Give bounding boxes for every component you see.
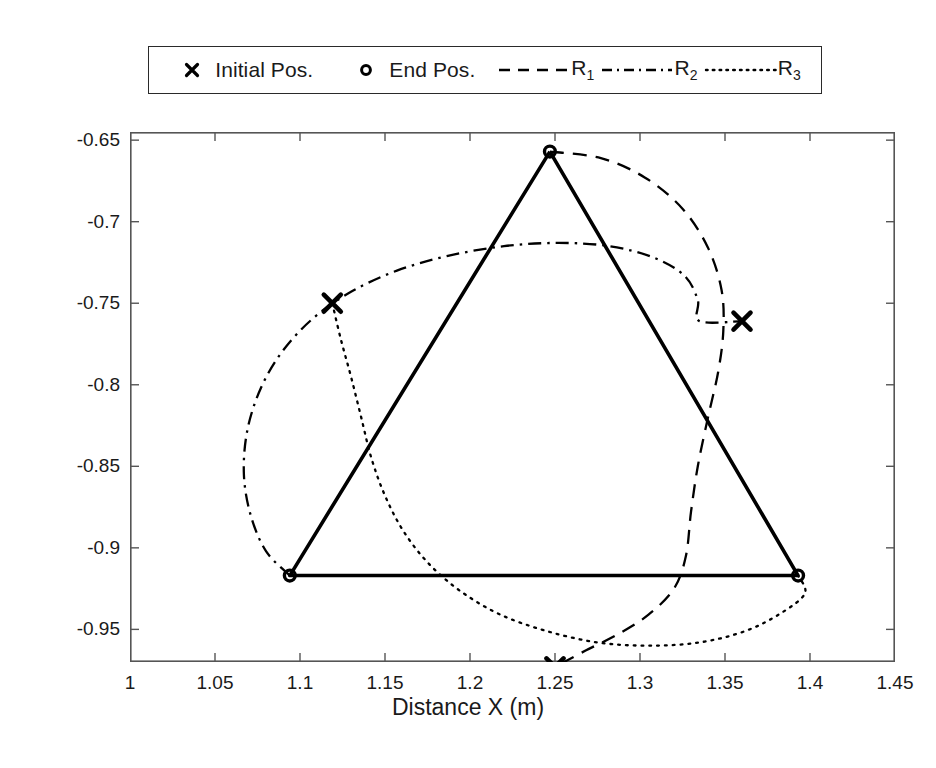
legend-item-r2: R2 (600, 56, 697, 83)
x-tick-label: 1.3 (627, 672, 653, 694)
x-tick-label: 1.4 (797, 672, 823, 694)
x-marker-icon (169, 59, 215, 81)
circle-marker-icon (343, 59, 389, 81)
legend-item-r1: R1 (497, 56, 594, 83)
x-tick-label: 1.35 (707, 672, 744, 694)
legend-label-end-pos: End Pos. (389, 58, 475, 82)
y-tick-label: -0.95 (34, 618, 120, 640)
marker-end-pos (545, 146, 556, 157)
series-r3 (332, 303, 805, 645)
legend-label-r3: R3 (778, 56, 801, 83)
chart-page: Initial Pos. End Pos. R1 (0, 0, 936, 768)
y-tick-label: -0.85 (34, 455, 120, 477)
x-axis-label: Distance X (m) (0, 694, 936, 721)
y-tick-label: -0.65 (34, 129, 120, 151)
series-formation-triangle (290, 152, 798, 576)
marker-initial-pos (324, 295, 341, 312)
y-tick-label: -0.7 (34, 211, 120, 233)
x-tick-label: 1.1 (287, 672, 313, 694)
y-tick-label: -0.8 (34, 374, 120, 396)
chart-canvas (130, 132, 895, 662)
legend-label-r2: R2 (674, 56, 697, 83)
x-tick-label: 1.2 (457, 672, 483, 694)
x-tick-label: 1.25 (537, 672, 574, 694)
legend-label-r1: R1 (571, 56, 594, 83)
x-tick-label: 1 (125, 672, 136, 694)
dotted-line-icon (704, 59, 778, 81)
legend-item-r3: R3 (704, 56, 801, 83)
x-tick-label: 1.45 (877, 672, 914, 694)
dashdot-line-icon (600, 59, 674, 81)
y-tick-label: -0.9 (34, 537, 120, 559)
legend-item-initial-pos: Initial Pos. (169, 58, 313, 82)
legend-label-initial-pos: Initial Pos. (215, 58, 313, 82)
chart-legend: Initial Pos. End Pos. R1 (148, 46, 822, 94)
x-tick-label: 1.15 (367, 672, 404, 694)
plot-area (130, 132, 895, 662)
dashed-line-icon (497, 59, 571, 81)
legend-item-end-pos: End Pos. (343, 58, 475, 82)
y-tick-label: -0.75 (34, 292, 120, 314)
x-tick-label: 1.05 (197, 672, 234, 694)
